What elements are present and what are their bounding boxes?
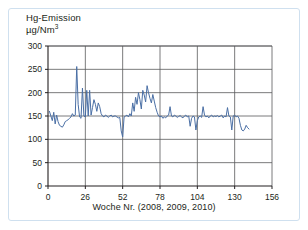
- x-tick-label: 52: [118, 192, 128, 202]
- chart-figure: Hg-Emission µg/Nm3 050100150200250300 02…: [0, 0, 308, 230]
- x-tick-label: 156: [265, 192, 279, 202]
- chart-svg: 050100150200250300 0265278104130156: [0, 0, 308, 230]
- y-tick-label: 150: [28, 111, 42, 121]
- y-tick-label: 300: [28, 41, 42, 51]
- x-tick-label: 104: [190, 192, 204, 202]
- y-tick-label: 250: [28, 64, 42, 74]
- x-tick-labels-group: 0265278104130156: [46, 192, 280, 202]
- y-tick-label: 200: [28, 88, 42, 98]
- x-tick-label: 78: [155, 192, 165, 202]
- y-tick-label: 100: [28, 134, 42, 144]
- data-series-line: [49, 67, 249, 137]
- plot-area-wrapper: 050100150200250300 0265278104130156: [0, 0, 308, 230]
- x-tick-label: 130: [228, 192, 242, 202]
- x-tick-label: 26: [81, 192, 91, 202]
- x-tick-label: 0: [46, 192, 51, 202]
- y-tick-labels-group: 050100150200250300: [28, 41, 42, 191]
- y-tick-label: 50: [33, 158, 43, 168]
- x-axis-title: Woche Nr. (2008, 2009, 2010): [0, 202, 308, 212]
- y-tick-label: 0: [37, 181, 42, 191]
